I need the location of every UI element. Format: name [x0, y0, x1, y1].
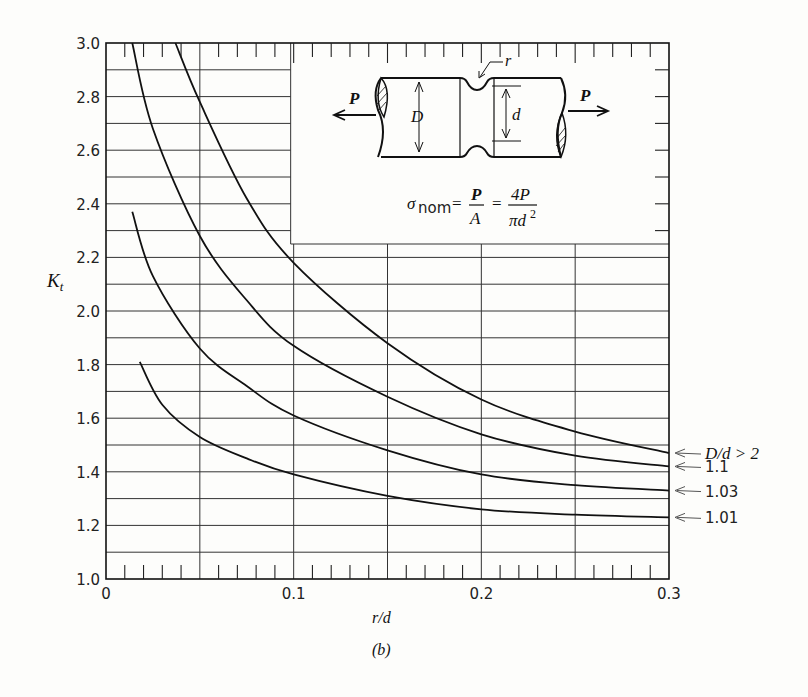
x-axis-label: r/d — [372, 609, 392, 626]
tick-labels: 1.01.21.41.61.82.02.22.42.62.83.000.10.2… — [76, 35, 681, 603]
figure-caption: (b) — [372, 641, 391, 659]
y-tick-label: 1.8 — [76, 357, 100, 375]
formula-den-2: πd — [509, 211, 527, 230]
y-tick-label: 2.4 — [76, 196, 100, 214]
formula-subscript: nom — [418, 199, 451, 217]
curve-labels: D/d > 21.11.031.01 — [675, 444, 759, 527]
y-tick-label: 2.2 — [76, 249, 100, 267]
curves — [132, 43, 669, 517]
x-tick-label: 0.3 — [657, 585, 681, 603]
diameter-large-label: D — [410, 107, 424, 126]
formula-den-sup: 2 — [530, 207, 536, 221]
curve-label: 1.03 — [705, 483, 738, 501]
curve-1-1 — [132, 43, 669, 466]
stress-concentration-chart: 1.01.21.41.61.82.02.22.42.62.83.000.10.2… — [0, 0, 808, 697]
x-tick-label: 0.1 — [282, 585, 306, 603]
y-tick-label: 2.6 — [76, 142, 100, 160]
y-tick-label: 1.4 — [76, 464, 100, 482]
load-label-left: P — [348, 89, 360, 108]
y-tick-label: 2.0 — [76, 303, 100, 321]
formula-den-1: A — [469, 209, 481, 228]
formula-equals-1: = — [452, 194, 462, 213]
curve-1-03 — [132, 212, 669, 491]
y-tick-label: 1.0 — [76, 571, 100, 589]
x-tick-label: 0.2 — [469, 585, 493, 603]
formula-equals-2: = — [492, 194, 502, 213]
formula-sigma: σ — [407, 194, 416, 213]
y-tick-label: 3.0 — [76, 35, 100, 53]
load-label-right: P — [579, 86, 591, 105]
notched-bar-diagram — [334, 62, 608, 157]
formula-num-1: P — [470, 185, 482, 204]
curve-label: 1.1 — [705, 458, 729, 476]
y-axis-label: Kt — [46, 270, 64, 294]
diameter-small-label: d — [512, 105, 521, 124]
x-tick-label: 0 — [101, 585, 111, 603]
formula-num-2: 4P — [511, 185, 530, 204]
curve-1-01 — [140, 362, 669, 517]
y-tick-label: 1.2 — [76, 517, 100, 535]
y-tick-label: 1.6 — [76, 410, 100, 428]
grid — [106, 43, 669, 579]
radius-label: r — [505, 52, 512, 69]
y-tick-label: 2.8 — [76, 89, 100, 107]
nominal-stress-formula: σ nom = P A = 4P πd 2 — [407, 185, 537, 230]
curve-label: 1.01 — [705, 509, 738, 527]
